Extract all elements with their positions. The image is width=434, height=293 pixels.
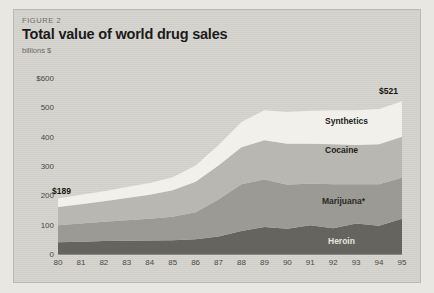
y-tick-300: 300 <box>41 162 54 171</box>
y-tick-500: 500 <box>41 103 54 112</box>
x-axis-labels: 80818283848586878889909192939495 <box>58 258 402 272</box>
series-label-marijuana: Marijuana* <box>322 196 365 206</box>
x-tick-92: 92 <box>329 258 338 267</box>
y-tick-600: $600 <box>36 74 54 83</box>
x-tick-82: 82 <box>99 258 108 267</box>
x-tick-90: 90 <box>283 258 292 267</box>
page-title: Total value of world drug sales <box>22 26 227 42</box>
x-tick-86: 86 <box>191 258 200 267</box>
series-label-cocaine: Cocaine <box>325 145 358 155</box>
x-tick-88: 88 <box>237 258 246 267</box>
stacked-area-plot <box>58 78 402 254</box>
x-tick-87: 87 <box>214 258 223 267</box>
x-axis-line <box>58 254 402 255</box>
series-label-heroin: Heroin <box>328 236 355 246</box>
figure-kicker: FIGURE 2 <box>22 16 61 25</box>
area-chart-svg <box>58 78 402 254</box>
x-tick-93: 93 <box>352 258 361 267</box>
x-tick-81: 81 <box>76 258 85 267</box>
y-tick-400: 400 <box>41 133 54 142</box>
callout-start-value: $189 <box>52 186 71 196</box>
x-tick-91: 91 <box>306 258 315 267</box>
x-tick-94: 94 <box>375 258 384 267</box>
x-tick-84: 84 <box>145 258 154 267</box>
y-axis-labels: $600 500 400 300 200 100 0 <box>14 78 54 254</box>
x-tick-80: 80 <box>54 258 63 267</box>
x-tick-83: 83 <box>122 258 131 267</box>
x-tick-89: 89 <box>260 258 269 267</box>
figure-root: FIGURE 2 Total value of world drug sales… <box>0 0 434 293</box>
series-label-synthetics: Synthetics <box>325 116 368 126</box>
x-tick-95: 95 <box>398 258 407 267</box>
axis-units-label: billions $ <box>22 46 51 55</box>
x-tick-85: 85 <box>168 258 177 267</box>
y-tick-100: 100 <box>41 221 54 230</box>
callout-end-value: $521 <box>379 86 398 96</box>
